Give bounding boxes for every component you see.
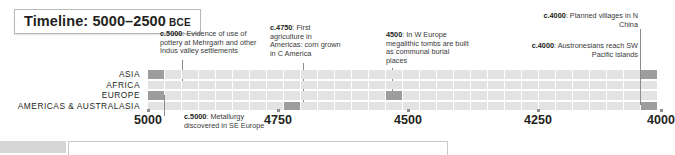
timeline-cell[interactable] (199, 91, 215, 100)
timeline-cell[interactable] (369, 70, 385, 79)
timeline-cell[interactable] (267, 70, 283, 79)
callout-date-austronesians-pacific: c.4000 (532, 41, 554, 50)
timeline-cell[interactable] (590, 91, 606, 100)
timeline-cell[interactable] (335, 70, 351, 79)
timeline-cell[interactable] (624, 91, 640, 100)
timeline-cell[interactable] (148, 91, 164, 100)
timeline-cell[interactable] (403, 91, 419, 100)
timeline-cell[interactable] (607, 91, 623, 100)
timeline-cell[interactable] (352, 70, 368, 79)
timeline-cell[interactable] (233, 91, 249, 100)
timeline-cell[interactable] (488, 70, 504, 79)
timeline-cell[interactable] (284, 91, 300, 100)
timeline-cell[interactable] (369, 91, 385, 100)
timeline-cell[interactable] (386, 70, 402, 79)
timeline-cell[interactable] (522, 91, 538, 100)
timeline-cell[interactable] (301, 81, 317, 90)
timeline-cell[interactable] (284, 70, 300, 79)
timeline-cell[interactable] (590, 70, 606, 79)
callout-note-austronesians-pacific: c.4000: Austronesians reach SW Pacific i… (528, 42, 638, 59)
timeline-cell[interactable] (454, 91, 470, 100)
timeline-cell[interactable] (471, 91, 487, 100)
timeline-cell[interactable] (505, 81, 521, 90)
timeline-cell[interactable] (318, 70, 334, 79)
timeline-cell[interactable] (505, 70, 521, 79)
timeline-cell[interactable] (556, 91, 572, 100)
timeline-cell[interactable] (573, 91, 589, 100)
timeline-cell[interactable] (318, 81, 334, 90)
timeline-cell[interactable] (216, 70, 232, 79)
timeline-cell[interactable] (369, 81, 385, 90)
timeline-cell[interactable] (556, 81, 572, 90)
timeline-cell[interactable] (505, 91, 521, 100)
timeline-cell[interactable] (352, 81, 368, 90)
timeline-cell[interactable] (607, 70, 623, 79)
timeline-cell[interactable] (522, 70, 538, 79)
timeline-cell[interactable] (471, 70, 487, 79)
timeline-row-africa (148, 81, 668, 91)
timeline-cell[interactable] (216, 91, 232, 100)
timeline-cell[interactable] (641, 91, 657, 100)
timeline-cell[interactable] (437, 91, 453, 100)
timeline-cell[interactable] (267, 81, 283, 90)
timeline-cell[interactable] (573, 81, 589, 90)
timeline-cell[interactable] (335, 81, 351, 90)
axis-tick-label-4500: 4500 (394, 113, 422, 127)
leader-line-planned-villages-china (640, 29, 641, 73)
timeline-cell[interactable] (267, 91, 283, 100)
timeline-cell[interactable] (199, 70, 215, 79)
timeline-cell[interactable] (233, 81, 249, 90)
timeline-cell[interactable] (335, 91, 351, 100)
timeline-cell[interactable] (182, 81, 198, 90)
timeline-cell[interactable] (437, 81, 453, 90)
axis-tick-mark-4500 (407, 109, 410, 112)
timeline-cell[interactable] (250, 70, 266, 79)
timeline-cell[interactable] (437, 70, 453, 79)
timeline-cell[interactable] (420, 91, 436, 100)
timeline-cell[interactable] (420, 70, 436, 79)
timeline-cell[interactable] (318, 91, 334, 100)
timeline-cell[interactable] (386, 91, 402, 100)
timeline-cell[interactable] (250, 81, 266, 90)
timeline-cell[interactable] (403, 81, 419, 90)
timeline-cell[interactable] (454, 70, 470, 79)
timeline-cell[interactable] (165, 91, 181, 100)
timeline-cell[interactable] (573, 70, 589, 79)
timeline-cell[interactable] (216, 81, 232, 90)
timeline-cell[interactable] (624, 70, 640, 79)
timeline-cell[interactable] (539, 70, 555, 79)
timeline-cell[interactable] (250, 91, 266, 100)
timeline-cell[interactable] (199, 81, 215, 90)
timeline-cell[interactable] (148, 70, 164, 79)
timeline-cell[interactable] (182, 70, 198, 79)
timeline-cell[interactable] (233, 70, 249, 79)
timeline-cell[interactable] (454, 81, 470, 90)
timeline-cell[interactable] (488, 81, 504, 90)
timeline-cell[interactable] (420, 81, 436, 90)
timeline-cell[interactable] (182, 91, 198, 100)
timeline-cell[interactable] (352, 91, 368, 100)
timeline-cell[interactable] (471, 81, 487, 90)
timeline-cell[interactable] (403, 70, 419, 79)
timeline-cell[interactable] (539, 81, 555, 90)
timeline-cell[interactable] (165, 81, 181, 90)
timeline-cell[interactable] (522, 81, 538, 90)
axis-tick-mark-4250 (537, 109, 540, 112)
timeline-cell[interactable] (301, 91, 317, 100)
timeline-title-text: Timeline: 5000–2500 (24, 13, 166, 29)
callout-note-megalithic-tombs: 4500: In W Europe megalithic tombs are b… (386, 31, 472, 65)
timeline-cell[interactable] (386, 81, 402, 90)
timeline-cell[interactable] (624, 81, 640, 90)
timeline-cell[interactable] (556, 70, 572, 79)
timeline-cell[interactable] (590, 81, 606, 90)
timeline-cell[interactable] (488, 91, 504, 100)
timeline-cell[interactable] (641, 81, 657, 90)
timeline-cell[interactable] (641, 70, 657, 79)
timeline-cell[interactable] (284, 81, 300, 90)
timeline-cell[interactable] (165, 70, 181, 79)
timeline-cell[interactable] (607, 81, 623, 90)
timeline-cell[interactable] (301, 70, 317, 79)
timeline-cell[interactable] (539, 91, 555, 100)
timeline-cell[interactable] (148, 81, 164, 90)
axis-tick-label-4000: 4000 (647, 113, 675, 127)
